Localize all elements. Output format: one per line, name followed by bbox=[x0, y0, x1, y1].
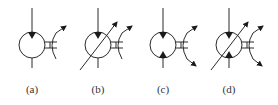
symbol-c bbox=[150, 8, 197, 68]
label-d: (d) bbox=[214, 82, 244, 96]
rotation-arrow-top-icon bbox=[253, 26, 263, 33]
rotation-arrow-top-icon bbox=[187, 26, 197, 33]
label-b: (b) bbox=[83, 82, 113, 96]
rotation-arc bbox=[118, 33, 122, 59]
flow-triangle-bottom-icon bbox=[225, 51, 233, 58]
label-a: (a) bbox=[17, 82, 47, 96]
rotation-arc bbox=[183, 33, 187, 59]
flow-triangle-top-icon bbox=[94, 32, 102, 39]
flow-triangle-top-icon bbox=[225, 32, 233, 39]
rotation-arc bbox=[52, 33, 56, 59]
flow-triangle-top-icon bbox=[159, 32, 167, 39]
flow-triangle-bottom-icon bbox=[159, 51, 167, 58]
rotation-arrow-bottom-icon bbox=[187, 59, 196, 66]
symbol-a bbox=[19, 8, 66, 68]
symbol-b bbox=[80, 8, 132, 70]
rotation-arc bbox=[249, 33, 253, 59]
symbol-d bbox=[211, 8, 263, 70]
rotation-arrow-top-icon bbox=[56, 26, 66, 33]
rotation-arrow-bottom-icon bbox=[253, 59, 262, 66]
flow-triangle-top-icon bbox=[28, 32, 36, 39]
rotation-arrow-top-icon bbox=[122, 26, 132, 33]
label-c: (c) bbox=[148, 82, 178, 96]
